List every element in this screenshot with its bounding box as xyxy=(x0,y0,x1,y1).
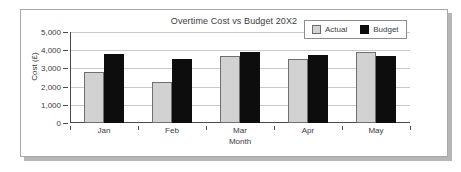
bar-actual-jan xyxy=(84,72,104,123)
y-axis-tick-mark xyxy=(63,50,68,51)
bar-actual-feb xyxy=(152,82,172,123)
x-axis-tick-labels: JanFebMarAprMay xyxy=(70,126,410,135)
x-axis-tick-mark xyxy=(342,126,343,130)
y-axis-tick-label: 3,000 xyxy=(41,64,61,73)
x-axis-tick-label: May xyxy=(342,126,410,135)
x-axis-tick-label: Feb xyxy=(138,126,206,135)
x-axis-tick-mark xyxy=(206,126,207,130)
legend-label: Actual xyxy=(325,25,347,34)
x-axis-tick-mark xyxy=(274,126,275,130)
legend-swatch-actual-icon xyxy=(312,25,321,34)
y-axis-tick-label: 0 xyxy=(57,119,61,128)
legend-item-actual: Actual xyxy=(312,25,347,34)
y-axis-tick-label: 4,000 xyxy=(41,46,61,55)
bar-budget-mar xyxy=(240,52,260,123)
bar-group xyxy=(70,32,138,123)
x-axis-tick-label: Apr xyxy=(274,126,342,135)
x-axis-tick-mark xyxy=(410,126,411,130)
y-axis-tick-labels: 01,0002,0003,0004,0005,000 xyxy=(21,32,68,123)
bar-budget-feb xyxy=(172,59,192,123)
bar-group xyxy=(342,32,410,123)
x-axis-tick-mark xyxy=(138,126,139,130)
y-axis-tick-label: 5,000 xyxy=(41,28,61,37)
bar-group xyxy=(274,32,342,123)
y-axis-tick-mark xyxy=(63,123,68,124)
legend-swatch-budget-icon xyxy=(360,25,369,34)
bar-group xyxy=(138,32,206,123)
x-axis-tick-label: Jan xyxy=(70,126,138,135)
bar-actual-apr xyxy=(288,59,308,123)
bar-budget-may xyxy=(376,56,396,123)
y-axis-tick-label: 1,000 xyxy=(41,100,61,109)
bars-layer xyxy=(70,32,410,123)
bar-actual-mar xyxy=(220,56,240,123)
bar-group xyxy=(206,32,274,123)
x-axis-title: Month xyxy=(70,137,410,146)
y-axis-tick-mark xyxy=(63,68,68,69)
x-axis-tick-mark xyxy=(70,126,71,130)
plot-area xyxy=(70,32,410,123)
bar-budget-jan xyxy=(104,54,124,123)
x-axis-tick-label: Mar xyxy=(206,126,274,135)
legend-item-budget: Budget xyxy=(360,25,398,34)
chart-legend: ActualBudget xyxy=(304,20,407,39)
y-axis-tick-label: 2,000 xyxy=(41,82,61,91)
legend-label: Budget xyxy=(373,25,398,34)
chart-container: Overtime Cost vs Budget 20X2 Cost (£) 01… xyxy=(20,9,448,157)
y-axis-tick-mark xyxy=(63,32,68,33)
y-axis-tick-mark xyxy=(63,87,68,88)
bar-actual-may xyxy=(356,52,376,123)
bar-budget-apr xyxy=(308,55,328,123)
y-axis-tick-mark xyxy=(63,105,68,106)
